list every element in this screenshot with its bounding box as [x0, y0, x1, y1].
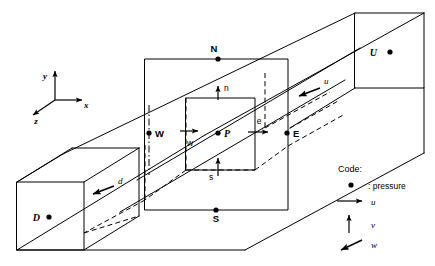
node-dot-U — [387, 49, 392, 54]
figure-container: N S W E P U D n s w e u — [0, 0, 435, 266]
legend-arrow-downleft-icon — [341, 240, 362, 250]
node-dot-D — [46, 214, 51, 219]
face-label-e: e — [257, 116, 262, 126]
node-dot-S — [213, 207, 218, 212]
node-label-W: W — [155, 128, 164, 139]
axis-label-x: x — [83, 100, 89, 110]
staggered-grid-diagram: N S W E P U D n s w e u — [0, 0, 435, 266]
face-label-s: s — [209, 172, 213, 182]
face-arrow-n: n — [218, 83, 229, 100]
face-arrow-u: u — [299, 76, 329, 96]
d-cube-hidden-edge — [84, 216, 139, 233]
node-label-P: P — [224, 128, 231, 139]
cv-front-rect — [186, 98, 255, 170]
face-label-n: n — [224, 83, 229, 93]
face-label-d: d — [118, 176, 123, 186]
node-label-E: E — [293, 128, 299, 139]
legend-label-v: v — [371, 220, 375, 230]
duct-edge-bottom-rear — [205, 13, 424, 135]
u-cube-hidden-edge — [290, 100, 340, 128]
duct-edge-bottom-right-long — [245, 153, 424, 250]
node-dot-P — [215, 130, 220, 135]
node-dot-W — [146, 130, 151, 135]
duct-edge-left-front-upper — [17, 154, 63, 182]
axis-label-y: y — [42, 71, 48, 81]
face-label-w: w — [186, 138, 194, 148]
cv-hidden-diag-br — [255, 146, 288, 170]
legend-label-u: u — [371, 197, 376, 207]
duct-band-lower-edge — [120, 80, 345, 212]
duct-rear-hidden-lower — [84, 200, 145, 233]
rear-top-dash — [265, 92, 330, 128]
axis-z-line — [33, 100, 55, 115]
legend-title: Code: — [338, 164, 362, 174]
node-label-U: U — [370, 47, 378, 58]
duct-band-upper-edge — [137, 48, 360, 180]
node-dot-N — [215, 56, 220, 61]
legend: Code: : pressure u v w — [337, 164, 406, 250]
cv-hidden-diag-bl — [145, 170, 186, 200]
legend-dot-icon — [348, 182, 353, 187]
axis-label-z: z — [33, 116, 38, 126]
node-label-N: N — [211, 43, 218, 54]
node-dot-E — [284, 130, 289, 135]
face-label-u: u — [324, 76, 329, 86]
node-label-D: D — [32, 212, 40, 223]
legend-label-pressure: : pressure — [368, 181, 406, 191]
control-volume-front-face — [186, 98, 255, 170]
face-arrow-d: d — [93, 176, 123, 194]
duct-outer-box — [17, 13, 424, 250]
legend-label-w: w — [371, 240, 377, 250]
d-cube-edge-topright — [84, 148, 139, 182]
axis-triad: y x z — [33, 71, 89, 126]
node-label-S: S — [213, 213, 219, 224]
d-cube-edge-bottomright — [84, 216, 139, 250]
pressure-nodes — [46, 49, 392, 219]
